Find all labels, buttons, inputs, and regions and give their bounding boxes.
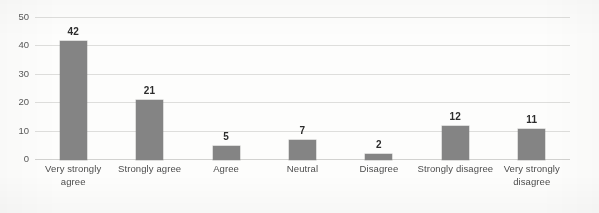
bar-group: 12 bbox=[417, 18, 493, 160]
bar-group: 5 bbox=[188, 18, 264, 160]
bar[interactable] bbox=[60, 41, 87, 160]
bar-group: 21 bbox=[111, 18, 187, 160]
bar-group: 7 bbox=[264, 18, 340, 160]
plot-area: 01020304050 42215721211 bbox=[35, 18, 570, 160]
y-axis-tick-label: 30 bbox=[18, 69, 29, 79]
bar-value-label: 2 bbox=[376, 140, 382, 150]
x-axis-category-label: Very strongly disagree bbox=[494, 163, 570, 188]
bar-value-label: 12 bbox=[450, 112, 462, 122]
bar-value-label: 7 bbox=[300, 126, 306, 136]
x-axis-category-label: Disagree bbox=[341, 163, 417, 176]
x-axis-category-label: Agree bbox=[188, 163, 264, 176]
y-axis-tick-label: 20 bbox=[18, 97, 29, 107]
bar[interactable] bbox=[213, 146, 240, 160]
x-axis-category-label: Strongly disagree bbox=[417, 163, 493, 176]
bar-group: 2 bbox=[341, 18, 417, 160]
bar-chart: 01020304050 42215721211 Very strongly ag… bbox=[0, 0, 599, 213]
y-axis-tick-label: 40 bbox=[18, 41, 29, 51]
y-axis-tick-label: 0 bbox=[24, 154, 29, 164]
bar[interactable] bbox=[289, 140, 316, 160]
bar-value-label: 5 bbox=[223, 132, 229, 142]
bar-group: 42 bbox=[35, 18, 111, 160]
x-axis-category-label: Strongly agree bbox=[111, 163, 187, 176]
y-axis-tick-label: 50 bbox=[18, 12, 29, 22]
bar[interactable] bbox=[518, 129, 545, 160]
bar-value-label: 21 bbox=[144, 86, 156, 96]
bar[interactable] bbox=[365, 154, 392, 160]
bar-value-label: 11 bbox=[526, 115, 537, 125]
bar-value-label: 42 bbox=[67, 27, 79, 37]
bar[interactable] bbox=[442, 126, 469, 160]
category-axis: Very strongly agreeStrongly agreeAgreeNe… bbox=[35, 163, 570, 209]
bar[interactable] bbox=[136, 100, 163, 160]
x-axis-category-label: Very strongly agree bbox=[35, 163, 111, 188]
bar-group: 11 bbox=[494, 18, 570, 160]
x-axis-category-label: Neutral bbox=[264, 163, 340, 176]
y-axis-tick-label: 10 bbox=[18, 126, 29, 136]
